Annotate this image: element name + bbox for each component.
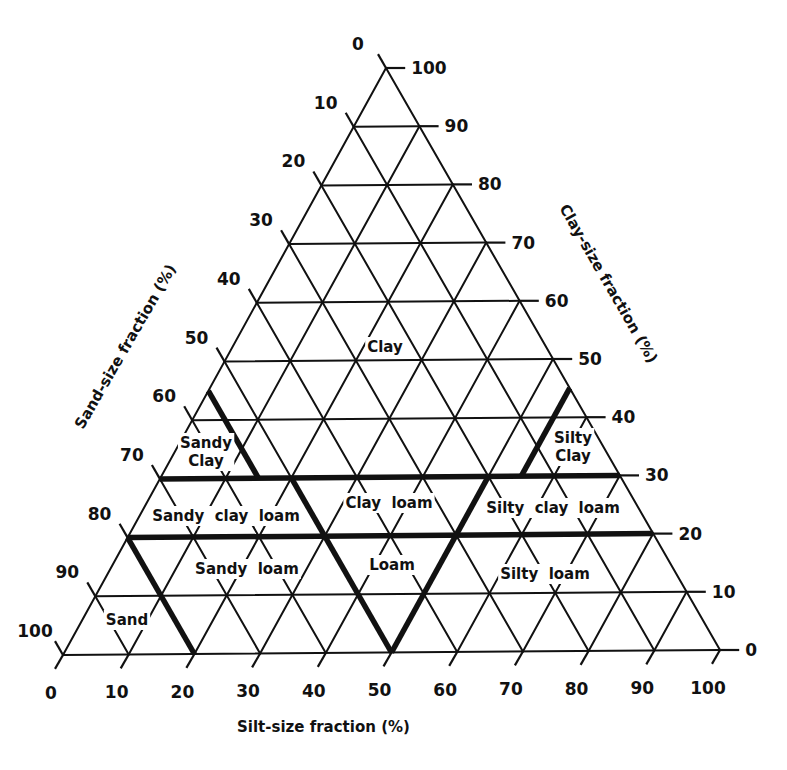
region-label-line: Sandy loam	[195, 560, 299, 578]
silt-tick-80	[581, 651, 589, 665]
axis-ticks	[55, 54, 739, 669]
region-label-line: Clay loam	[345, 494, 432, 512]
boundary-clay-20	[128, 534, 654, 538]
region-label-line: Clay	[188, 452, 224, 470]
region-label-sandy-loam: Sandy loam	[195, 560, 299, 578]
sand-tick-label-30: 30	[249, 210, 273, 230]
region-label-clay-loam: Clay loam	[345, 494, 432, 512]
silt-tick-label-100: 100	[690, 678, 726, 698]
silt-tick-label-80: 80	[565, 679, 589, 699]
clay-tick-label-100: 100	[411, 58, 447, 78]
region-label-silty-clay: SiltyClay	[554, 429, 592, 465]
sand-axis-title: Sand-size fraction (%)	[71, 261, 180, 432]
clay-tick-label-10: 10	[712, 582, 736, 602]
region-label-line: Sand	[106, 611, 148, 629]
sand-tick-0	[378, 54, 386, 68]
grid-line-clay-10	[95, 592, 686, 597]
clay-tick-label-0: 0	[745, 640, 757, 660]
region-label-line: Sandy	[180, 434, 232, 452]
sand-tick-90	[87, 582, 95, 596]
clay-tick-label-60: 60	[545, 291, 569, 311]
sand-tick-label-20: 20	[282, 151, 306, 171]
ternary-diagram: 0102030405060708090100010203040506070809…	[0, 0, 787, 770]
region-label-sandy-clay-loam: Sandy clay loam	[152, 507, 300, 525]
silt-tick-20	[186, 654, 194, 668]
clay-tick-label-70: 70	[511, 233, 535, 253]
silt-tick-100	[712, 650, 720, 664]
region-label-clay: Clay	[367, 338, 403, 356]
sand-tick-label-60: 60	[152, 386, 176, 406]
region-label-line: Loam	[369, 556, 415, 574]
sand-tick-40	[249, 289, 257, 303]
sand-tick-50	[217, 348, 225, 362]
sand-tick-20	[313, 171, 321, 185]
region-label-silty-loam: Silty loam	[500, 565, 590, 583]
sand-tick-label-40: 40	[217, 269, 241, 289]
region-label-silty-clay-loam: Silty clay loam	[486, 499, 620, 517]
region-label-sand: Sand	[106, 611, 148, 629]
region-label-loam: Loam	[369, 556, 415, 574]
clay-tick-label-50: 50	[578, 349, 602, 369]
grid-line-clay-50	[225, 359, 554, 362]
grid-line-sand-30	[289, 244, 523, 651]
clay-tick-label-40: 40	[612, 407, 636, 427]
silt-tick-label-70: 70	[499, 679, 523, 699]
silt-tick-label-60: 60	[433, 680, 457, 700]
tick-labels: 0102030405060708090100010203040506070809…	[17, 34, 757, 703]
region-label-line: Clay	[367, 338, 403, 356]
silt-tick-90	[646, 651, 654, 665]
grid-line-clay-70	[289, 243, 486, 245]
silt-tick-70	[515, 652, 523, 666]
grid-line-silt-90	[654, 592, 686, 651]
silt-tick-50	[384, 653, 392, 667]
grid-line-clay-90	[354, 126, 420, 127]
region-label-line: Silty clay loam	[486, 499, 620, 517]
silt-tick-label-90: 90	[630, 678, 654, 698]
silt-tick-30	[252, 654, 260, 668]
silt-tick-0	[55, 655, 63, 669]
sand-tick-label-70: 70	[120, 445, 144, 465]
region-label-line: Sandy clay loam	[152, 507, 300, 525]
sand-tick-10	[346, 113, 354, 127]
silt-tick-60	[449, 652, 457, 666]
sand-tick-label-100: 100	[17, 621, 53, 641]
boundary-clay-30	[160, 475, 620, 479]
sand-tick-label-50: 50	[185, 328, 209, 348]
clay-axis-title: Clay-size fraction (%)	[556, 201, 662, 366]
clay-tick-label-90: 90	[445, 116, 469, 136]
silt-tick-label-30: 30	[236, 681, 260, 701]
sand-tick-80	[120, 524, 128, 538]
clay-tick-label-20: 20	[678, 524, 702, 544]
sand-tick-70	[152, 465, 160, 479]
silt-axis-title: Silt-size fraction (%)	[237, 718, 410, 736]
silt-tick-label-0: 0	[45, 683, 57, 703]
region-label-line: Silty loam	[500, 565, 590, 583]
grid-line-silt-30	[260, 243, 486, 654]
sand-tick-label-80: 80	[88, 504, 112, 524]
silt-tick-label-10: 10	[105, 682, 129, 702]
sand-tick-label-0: 0	[352, 34, 364, 54]
grid-line-clay-60	[257, 301, 520, 303]
silt-tick-10	[121, 655, 129, 669]
clay-tick-label-30: 30	[645, 465, 669, 485]
region-label-line: Clay	[555, 447, 591, 465]
grid-line-clay-80	[321, 184, 452, 185]
silt-tick-label-20: 20	[171, 682, 195, 702]
sand-tick-60	[184, 406, 192, 420]
silt-tick-label-50: 50	[368, 680, 392, 700]
clay-tick-label-80: 80	[478, 174, 502, 194]
sand-tick-30	[281, 230, 289, 244]
silt-tick-label-40: 40	[302, 681, 326, 701]
soil-texture-triangle: 0102030405060708090100010203040506070809…	[0, 0, 787, 770]
sand-tick-label-10: 10	[314, 93, 338, 113]
silt-tick-40	[318, 653, 326, 667]
sand-tick-100	[55, 641, 63, 655]
sand-tick-label-90: 90	[55, 562, 79, 582]
region-label-line: Silty	[554, 429, 592, 447]
